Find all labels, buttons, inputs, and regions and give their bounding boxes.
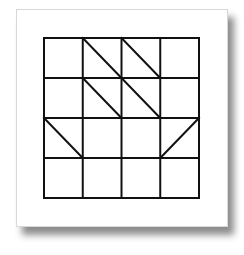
cell-diagonal bbox=[160, 118, 199, 158]
cell-diagonal bbox=[122, 78, 161, 118]
cell-diagonal bbox=[83, 78, 122, 118]
cell-diagonal bbox=[122, 38, 161, 78]
cell-diagonal bbox=[83, 38, 122, 78]
grid-diagram bbox=[0, 0, 244, 255]
cell-diagonal bbox=[44, 118, 83, 158]
